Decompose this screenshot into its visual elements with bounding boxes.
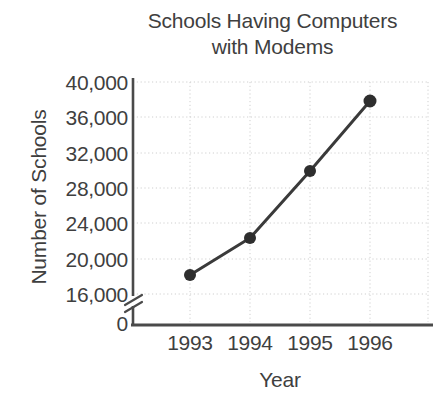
vertical-gridlines — [190, 82, 428, 322]
data-point-1993[interactable] — [184, 269, 196, 281]
data-point-1994[interactable] — [244, 232, 256, 244]
chart-figure: Schools Having Computers with Modems Num… — [0, 0, 438, 404]
horizontal-gridlines — [133, 82, 428, 294]
data-point-1995[interactable] — [304, 165, 316, 177]
data-point-1996[interactable] — [364, 95, 377, 108]
plot-area — [0, 0, 438, 404]
